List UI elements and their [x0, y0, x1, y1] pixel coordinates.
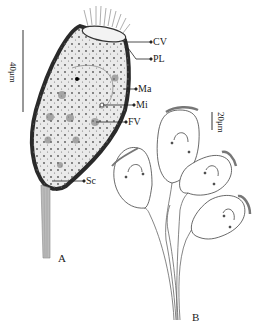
scale-bar-a-label: 40μm	[8, 62, 18, 83]
label-ma: Ma	[138, 84, 151, 94]
panel-label-b: B	[192, 312, 199, 322]
panel-label-a: A	[58, 253, 66, 263]
label-pl: PL	[153, 54, 165, 64]
scale-bar-b-label: 20μm	[216, 112, 226, 133]
label-sc: Sc	[86, 176, 96, 186]
label-cv: CV	[153, 37, 167, 47]
colony-b	[112, 107, 250, 320]
figure-illustration	[0, 0, 263, 328]
stalk-a	[41, 185, 50, 258]
label-fv: FV	[128, 117, 141, 127]
label-mi: Mi	[136, 100, 148, 110]
